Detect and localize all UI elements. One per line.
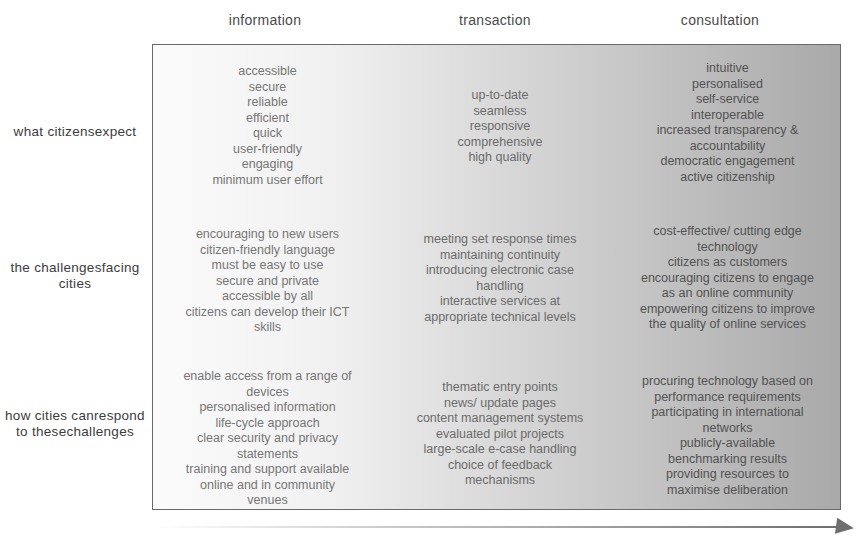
text-line: user-friendly xyxy=(160,142,375,158)
text-line: online and in community xyxy=(160,478,375,494)
cell-respond-information: enable access from a range ofdevicespers… xyxy=(160,369,375,509)
text-line: what citizens xyxy=(14,124,95,139)
text-line: secure and private xyxy=(160,274,375,290)
cell-respond-consultation: procuring technology based onperformance… xyxy=(615,374,840,498)
cell-expect-consultation: intuitivepersonalisedself-serviceinterop… xyxy=(615,61,840,185)
text-line: must be easy to use xyxy=(160,258,375,274)
text-line: training and support available xyxy=(160,462,375,478)
text-line: cost-effective/ cutting edge xyxy=(615,224,840,240)
text-line: the challenges xyxy=(10,260,101,275)
text-line: accountability xyxy=(615,139,840,155)
text-line: devices xyxy=(160,385,375,401)
row-label-how-cities-can-respond: how cities canrespond to thesechallenges xyxy=(0,408,150,440)
text-line: interactive services at xyxy=(395,294,605,310)
text-line: thematic entry points xyxy=(395,380,605,396)
text-line: enable access from a range of xyxy=(160,369,375,385)
text-line: maximise deliberation xyxy=(615,483,840,499)
text-line: high quality xyxy=(395,150,605,166)
text-line: skills xyxy=(160,320,375,336)
text-line: news/ update pages xyxy=(395,396,605,412)
text-line: minimum user effort xyxy=(160,173,375,189)
text-line: citizen-friendly language xyxy=(160,243,375,259)
text-line: large-scale e-case handling xyxy=(395,442,605,458)
cell-expect-transaction: up-to-dateseamlessresponsivecomprehensiv… xyxy=(395,88,605,166)
text-line: reliable xyxy=(160,95,375,111)
text-line: benchmarking results xyxy=(615,452,840,468)
cell-expect-information: accessiblesecurereliableefficientquickus… xyxy=(160,64,375,188)
row-label-challenges-facing-cities: the challengesfacing cities xyxy=(0,260,150,292)
text-line: democratic engagement xyxy=(615,154,840,170)
text-line: personalised information xyxy=(160,400,375,416)
text-line: encouraging to new users xyxy=(160,227,375,243)
text-line: venues xyxy=(160,493,375,509)
text-line: the quality of online services xyxy=(615,317,840,333)
text-line: maintaining continuity xyxy=(395,248,605,264)
text-line: appropriate technical levels xyxy=(395,310,605,326)
text-line: seamless xyxy=(395,104,605,120)
text-line: networks xyxy=(615,421,840,437)
text-line: expect xyxy=(95,124,137,139)
text-line: accessible by all xyxy=(160,289,375,305)
cell-challenges-transaction: meeting set response timesmaintaining co… xyxy=(395,232,605,325)
text-line: introducing electronic case xyxy=(395,263,605,279)
text-line: life-cycle approach xyxy=(160,416,375,432)
text-line: active citizenship xyxy=(615,170,840,186)
text-line: citizens as customers xyxy=(615,255,840,271)
text-line: efficient xyxy=(160,111,375,127)
text-line: intuitive xyxy=(615,61,840,77)
text-line: comprehensive xyxy=(395,135,605,151)
text-line: participating in international xyxy=(615,405,840,421)
text-line: choice of feedback xyxy=(395,458,605,474)
text-line: content management systems xyxy=(395,411,605,427)
text-line: responsive xyxy=(395,119,605,135)
text-line: up-to-date xyxy=(395,88,605,104)
text-line: encouraging citizens to engage xyxy=(615,271,840,287)
text-line: technology xyxy=(615,240,840,256)
text-line: self-service xyxy=(615,92,840,108)
text-line: performance requirements xyxy=(615,390,840,406)
text-line: meeting set response times xyxy=(395,232,605,248)
text-line: as an online community xyxy=(615,286,840,302)
text-line: publicly-available xyxy=(615,436,840,452)
text-line: procuring technology based on xyxy=(615,374,840,390)
text-line: increased transparency & xyxy=(615,123,840,139)
text-line: secure xyxy=(160,80,375,96)
text-line: clear security and privacy xyxy=(160,431,375,447)
text-line: engaging xyxy=(160,157,375,173)
text-line: interoperable xyxy=(615,108,840,124)
text-line: evaluated pilot projects xyxy=(395,427,605,443)
text-line: mechanisms xyxy=(395,473,605,489)
text-line: statements xyxy=(160,447,375,463)
row-label-what-citizens-expect: what citizensexpect xyxy=(0,124,150,140)
cell-challenges-consultation: cost-effective/ cutting edgetechnologyci… xyxy=(615,224,840,333)
column-header-consultation: consultation xyxy=(600,12,840,28)
text-line: providing resources to xyxy=(615,467,840,483)
text-line: citizens can develop their ICT xyxy=(160,305,375,321)
text-line: quick xyxy=(160,126,375,142)
cell-challenges-information: encouraging to new userscitizen-friendly… xyxy=(160,227,375,336)
progression-arrow-line xyxy=(155,526,841,528)
column-header-information: information xyxy=(160,12,370,28)
text-line: handling xyxy=(395,279,605,295)
arrow-head-icon xyxy=(835,518,855,536)
text-line: empowering citizens to improve xyxy=(615,302,840,318)
text-line: how cities can xyxy=(5,408,94,423)
text-line: personalised xyxy=(615,77,840,93)
column-header-transaction: transaction xyxy=(390,12,600,28)
text-line: challenges xyxy=(66,424,134,439)
text-line: accessible xyxy=(160,64,375,80)
cell-respond-transaction: thematic entry pointsnews/ update pagesc… xyxy=(395,380,605,489)
